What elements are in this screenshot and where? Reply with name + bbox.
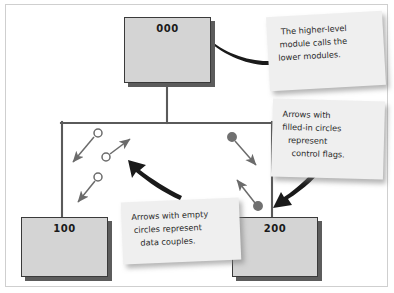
connector-lines <box>61 83 273 218</box>
note-data-couples: Arrows with empty circles represent data… <box>121 198 241 265</box>
module-box-100[interactable]: 100 <box>21 217 108 277</box>
data-couple-3-circle <box>94 173 102 181</box>
data-couple-1-circle <box>94 129 102 137</box>
control-flag-2-circle <box>254 202 262 210</box>
module-box-200[interactable]: 200 <box>232 217 318 277</box>
note-line: data couples. <box>132 233 231 250</box>
data-couple-3-shaft <box>78 181 95 202</box>
data-couple-2-shaft <box>110 139 130 154</box>
control-flag-1-circle <box>228 133 236 141</box>
note-line: control flags. <box>281 147 374 163</box>
callout-arrow-to-data-couples <box>128 160 182 200</box>
note-higher-level-module: The higher-level module calls the lower … <box>266 11 386 91</box>
diagram-canvas: 000 100 200 The higher-level module call… <box>0 0 394 293</box>
data-couple-1-shaft <box>73 137 94 162</box>
note-control-flags: Arrows with filled-in circles represent … <box>271 98 385 179</box>
module-label-200: 200 <box>233 223 317 234</box>
module-label-000: 000 <box>125 23 210 34</box>
control-flag-1-shaft <box>235 141 256 165</box>
module-label-100: 100 <box>22 223 107 234</box>
data-couple-arrows <box>73 129 130 202</box>
module-box-000[interactable]: 000 <box>124 17 211 83</box>
control-flag-2-shaft <box>237 180 255 203</box>
data-couple-2-circle <box>102 153 110 161</box>
